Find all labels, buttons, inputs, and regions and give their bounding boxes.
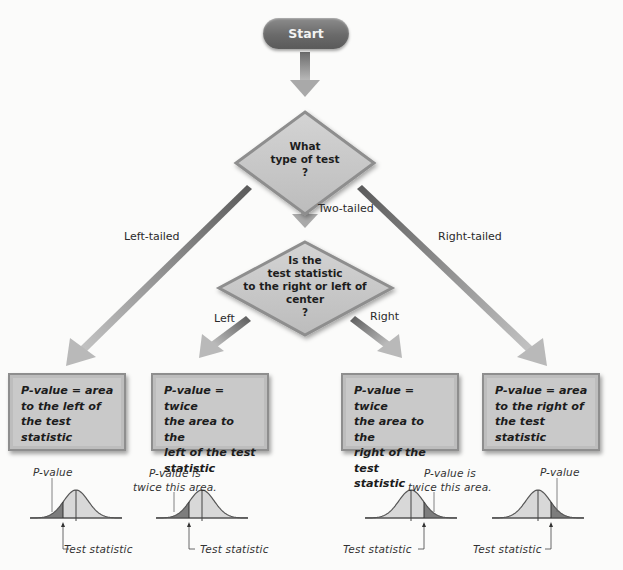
decision-line: ? xyxy=(225,306,385,319)
outcome-line: to the right of xyxy=(495,399,589,415)
caption-line: twice this area. xyxy=(408,480,492,494)
decision-line: Is the xyxy=(225,254,385,267)
branch-label-left-tailed: Left-tailed xyxy=(124,230,180,243)
pointer-arrowhead xyxy=(549,522,553,527)
normal-curve-illustration xyxy=(30,478,122,549)
outcome-line: to the left of xyxy=(21,399,115,415)
outcome-line: statistic xyxy=(495,430,589,446)
outcome-left-tailed: P-value = area to the left of the test s… xyxy=(8,373,126,451)
branch-label-right-tailed: Right-tailed xyxy=(438,230,502,243)
outcome-two-tailed-left: P-value = twice the area to the left of … xyxy=(151,373,269,451)
pointer-arrowhead xyxy=(422,522,426,527)
outcome-right-tailed: P-value = area to the right of the test … xyxy=(482,373,600,451)
decision-test-type: What type of test ? xyxy=(245,140,365,179)
normal-curve-illustration xyxy=(492,478,584,549)
decision-line: center xyxy=(225,293,385,306)
illustration-2-pointer-label: Test statistic xyxy=(200,543,269,555)
branch-label-right: Right xyxy=(370,310,399,323)
illustration-3-caption: P-value is twice this area. xyxy=(408,466,492,494)
normal-curve-illustration xyxy=(156,490,248,549)
caption-line: P-value xyxy=(33,466,73,478)
caption-line: P-value is xyxy=(133,466,217,480)
outcome-line: P-value = twice xyxy=(164,383,258,414)
decision-line: type of test xyxy=(245,153,365,166)
illustration-4-pointer-label: Test statistic xyxy=(473,543,542,555)
p-value-tail-area xyxy=(156,502,189,518)
illustration-1-pointer-label: Test statistic xyxy=(64,543,133,555)
outcome-line: statistic xyxy=(21,430,115,446)
decision-side: Is the test statistic to the right or le… xyxy=(225,254,385,319)
start-node: Start xyxy=(263,18,349,49)
decision-line: ? xyxy=(245,166,365,179)
outcome-two-tailed-right: P-value = twice the area to the right of… xyxy=(341,373,459,451)
illustration-2-caption: P-value is twice this area. xyxy=(133,466,217,494)
p-value-tail-area xyxy=(30,502,63,518)
outcome-line: P-value = twice xyxy=(354,383,448,414)
illustration-3-pointer-label: Test statistic xyxy=(343,543,412,555)
outcome-line: the test xyxy=(21,414,115,430)
caption-line: P-value xyxy=(540,466,580,478)
decision-line: to the right or left of xyxy=(225,280,385,293)
arrow-start-to-decision xyxy=(290,52,320,97)
caption-line: twice this area. xyxy=(133,480,217,494)
p-value-tail-area xyxy=(424,502,457,518)
pointer-arrowhead xyxy=(61,522,65,527)
branch-label-two-tailed: Two-tailed xyxy=(318,202,374,215)
outcome-line: the area to the xyxy=(354,414,448,445)
outcome-line: P-value = area xyxy=(21,383,115,399)
caption-line: P-value is xyxy=(408,466,492,480)
outcome-line: the area to the xyxy=(164,414,258,445)
outcome-line: left of the test xyxy=(164,445,258,461)
illustration-1-caption: P-value xyxy=(33,466,73,478)
branch-label-left: Left xyxy=(214,312,235,325)
decision-line: What xyxy=(245,140,365,153)
pointer-arrowhead xyxy=(187,522,191,527)
start-label: Start xyxy=(288,26,324,41)
illustration-4-caption: P-value xyxy=(540,466,580,478)
outcome-line: P-value = area xyxy=(495,383,589,399)
normal-curve-illustration xyxy=(365,490,457,549)
decision-line: test statistic xyxy=(225,267,385,280)
outcome-line: the test xyxy=(495,414,589,430)
p-value-tail-area xyxy=(551,502,584,518)
